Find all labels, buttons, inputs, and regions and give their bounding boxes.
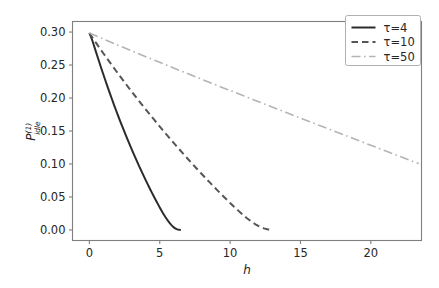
y-tick-label: 0.15 xyxy=(40,124,66,138)
y-tick-label: 0.10 xyxy=(40,157,66,171)
y-tick-label: 0.00 xyxy=(40,223,66,237)
legend-label-1[interactable]: τ=10 xyxy=(384,35,415,49)
chart-canvas: 05101520 0.000.050.100.150.200.250.30 h … xyxy=(0,0,439,288)
y-tick-label: 0.25 xyxy=(40,58,66,72)
y-label-subscript: idle xyxy=(33,121,42,135)
x-tick-label: 15 xyxy=(293,246,308,260)
y-label-superscript: (1) xyxy=(24,123,33,134)
y-tick-label: 0.20 xyxy=(40,91,66,105)
legend-label-0[interactable]: τ=4 xyxy=(384,21,408,35)
x-axis-label-text: h xyxy=(243,263,251,277)
x-tick-label: 20 xyxy=(364,246,379,260)
x-tick-label: 10 xyxy=(223,246,238,260)
legend[interactable]: τ=4τ=10τ=50 xyxy=(346,16,421,66)
x-tick-label: 5 xyxy=(156,246,163,260)
figure-container: 05101520 0.000.050.100.150.200.250.30 h … xyxy=(0,0,439,288)
x-axis-title: h xyxy=(243,263,251,277)
y-tick-label: 0.30 xyxy=(40,25,66,39)
y-tick-label: 0.05 xyxy=(40,190,66,204)
legend-label-2[interactable]: τ=50 xyxy=(384,50,415,64)
x-tick-label: 0 xyxy=(86,246,93,260)
